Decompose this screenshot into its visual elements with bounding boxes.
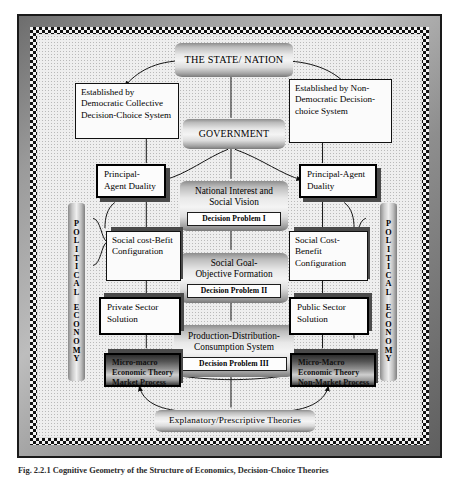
principal-agent-right-text: Principal-Agent Duality [307,169,365,191]
figure-caption: Fig. 2.2.1 Cognitive Geometry of the Str… [18,465,442,483]
figure-container: P O L I T I C A L E C O N O M Y [0,0,459,485]
node-private-sector-solution: Private Sector Solution [99,297,181,335]
figure-checkered-border: P O L I T I C A L E C O N O M Y [30,27,429,445]
micro-macro-nonmarket-line1: Micro-Macro [298,358,370,368]
private-sector-text: Private Sector Solution [107,302,158,324]
decision-problem-2: Decision Problem II [187,284,282,299]
left-pe-y: Y [74,355,80,364]
right-pe-l2: L [386,289,391,298]
theories-title: Explanatory/Prescriptive Theories [169,415,301,427]
established-nondemocratic-text: Established by Non-Democratic Decision-c… [295,83,375,116]
established-democratic-text: Established by Democratic Collective Dec… [81,87,171,120]
micro-macro-market-line1: Micro-macro [112,358,175,368]
node-established-nondemocratic: Established by Non-Democratic Decision-c… [289,79,392,143]
node-social-cost-befit: Social cost-Befit Configuration [106,231,181,281]
node-micro-macro-non-market-process: Micro-Macro Economic Theory Non-Market P… [290,353,376,387]
figure-outer-frame: P O L I T I C A L E C O N O M Y [17,14,442,458]
social-cost-befit-text: Social cost-Befit Configuration [112,235,173,256]
node-established-democratic: Established by Democratic Collective Dec… [75,83,179,139]
node-social-goal-objective: Social Goal- Objective Formation Decisio… [180,253,288,303]
figure-canvas: P O L I T I C A L E C O N O M Y [37,34,422,438]
social-goal-line1: Social Goal- [211,258,258,270]
node-state-nation: THE STATE/ NATION [175,43,293,77]
production-line2: Consumption System [194,342,274,354]
node-public-sector-solution: Public Sector Solution [289,297,369,335]
micro-macro-nonmarket-line3: Non-Market Process [298,378,370,388]
decision-problem-1: Decision Problem I [187,212,282,227]
side-label-political-economy-right: P O L I T I C A L E C O N O M Y [380,203,397,381]
production-line1: Production-Distribution- [188,331,280,343]
node-micro-macro-market-process: Micro-macro Economic Theory Market Proce… [104,353,181,387]
social-goal-line2: Objective Formation [195,269,272,281]
left-pe-l2: L [74,289,79,298]
public-sector-text: Public Sector Solution [297,302,346,324]
national-interest-line2: Social Vision [209,197,259,209]
node-principal-agent-right: Principal-Agent Duality [299,164,377,198]
micro-macro-market-line3: Market Process [112,378,175,388]
national-interest-line1: National Interest and [195,186,273,198]
right-pe-y: Y [386,355,392,364]
node-national-interest: National Interest and Social Vision Deci… [180,181,288,231]
node-explanatory-prescriptive-theories: Explanatory/Prescriptive Theories [155,410,315,432]
principal-agent-left-text: Principal-Agent Duality [104,169,156,191]
node-social-cost-benefit: Social Cost-Benefit Configuration [289,231,368,281]
node-principal-agent-left: Principal-Agent Duality [96,164,166,198]
node-government: GOVERNMENT [183,119,285,149]
node-production-distribution-consumption: Production-Distribution- Consumption Sys… [174,325,294,377]
state-nation-title: THE STATE/ NATION [185,54,284,66]
social-cost-benefit-text: Social Cost-Benefit Configuration [295,235,346,268]
micro-macro-nonmarket-line2: Economic Theory [298,368,370,378]
government-title: GOVERNMENT [199,128,270,140]
micro-macro-market-line2: Economic Theory [112,368,175,378]
decision-problem-3: Decision Problem III [181,357,286,372]
side-label-political-economy-left: P O L I T I C A L E C O N O M Y [68,203,85,381]
